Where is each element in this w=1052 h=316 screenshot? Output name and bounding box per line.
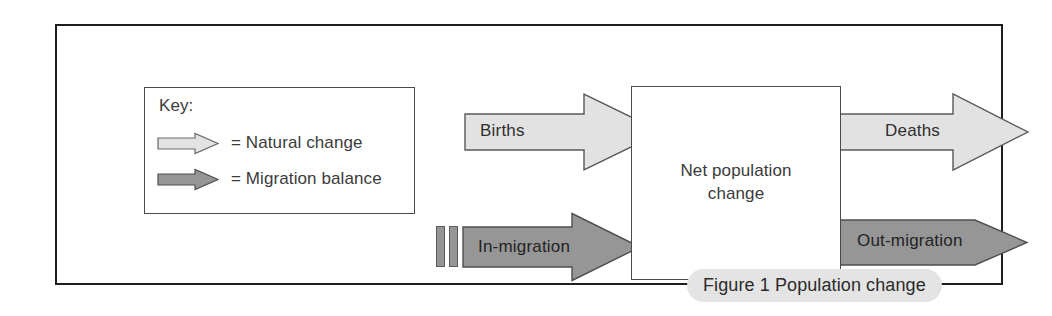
in-migration-bar-segment-2	[449, 226, 458, 267]
key-item-migration-balance: = Migration balance	[157, 166, 382, 192]
figure-outer-frame: Key: = Natural change = Migration balanc…	[55, 24, 1003, 285]
key-item-natural-change-label: = Natural change	[231, 133, 363, 153]
in-migration-bar-segment-1	[436, 226, 445, 267]
births-label: Births	[480, 121, 525, 141]
in-migration-label: In-migration	[478, 237, 570, 257]
key-legend-box: Key: = Natural change = Migration balanc…	[144, 87, 415, 214]
net-population-change-box: Net population change	[631, 86, 841, 280]
natural-change-arrow-icon	[157, 132, 219, 155]
net-population-change-label: Net population change	[632, 159, 840, 205]
migration-balance-arrow-icon	[157, 168, 219, 191]
key-item-migration-balance-label: = Migration balance	[231, 169, 382, 189]
key-title: Key:	[159, 96, 193, 116]
net-population-change-line-1: Net population	[680, 161, 791, 180]
deaths-label: Deaths	[885, 121, 940, 141]
key-item-natural-change: = Natural change	[157, 130, 363, 156]
net-population-change-line-2: change	[708, 184, 764, 203]
figure-page: Key: = Natural change = Migration balanc…	[0, 0, 1052, 316]
out-migration-label: Out-migration	[857, 231, 963, 251]
figure-caption: Figure 1 Population change	[687, 269, 942, 302]
